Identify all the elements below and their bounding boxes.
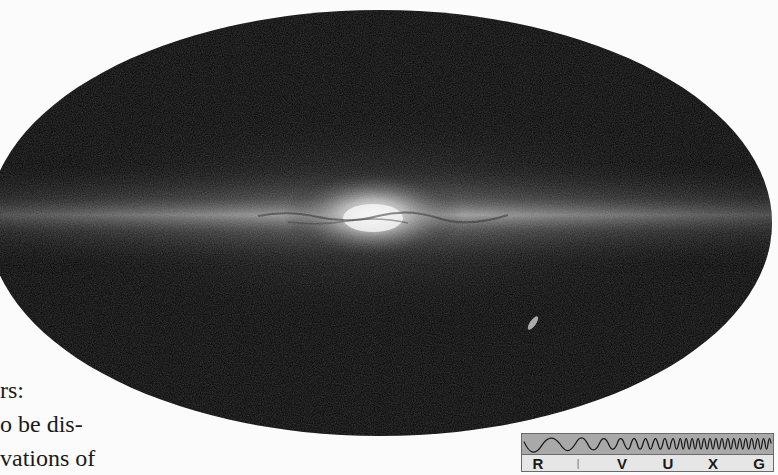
band-r: R — [533, 455, 544, 472]
band-v: V — [617, 455, 627, 472]
band-labels: R I V U X G — [522, 455, 773, 472]
band-i-active: I — [576, 455, 580, 472]
wave-icon — [522, 434, 773, 455]
body-text-fragment: rs: o be dis- vations of — [0, 373, 240, 475]
text-line: o be dis- — [0, 407, 240, 441]
text-line: rs: — [0, 373, 240, 407]
band-g: G — [753, 455, 765, 472]
text-line: vations of — [0, 441, 240, 475]
band-u: U — [663, 455, 674, 472]
band-x: X — [708, 455, 718, 472]
rivuxg-wavelength-badge: R I V U X G — [521, 433, 774, 472]
